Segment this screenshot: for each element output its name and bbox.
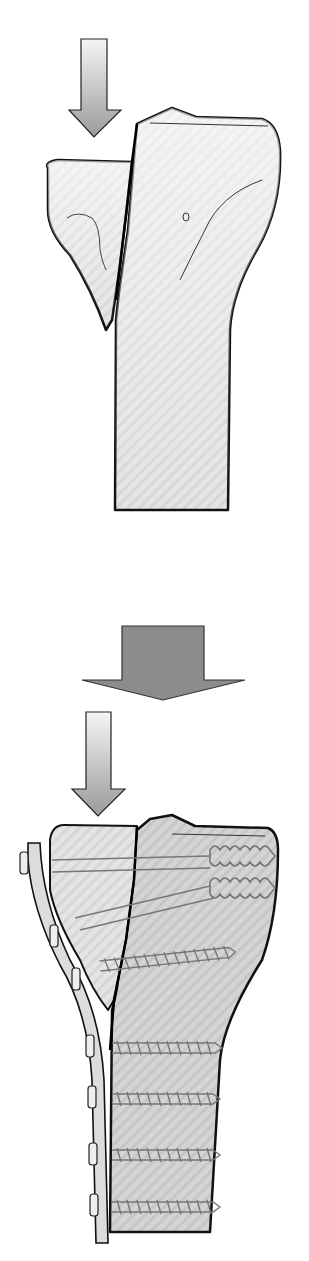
figure-canvas: Tibial plateau split fracture and plate … xyxy=(0,0,309,1261)
panel-before xyxy=(47,39,280,510)
load-arrow-icon xyxy=(72,712,125,816)
panel-transition xyxy=(82,626,245,700)
progression-arrow-icon xyxy=(82,626,245,700)
load-arrow-icon xyxy=(69,39,121,137)
illustration xyxy=(0,0,309,1261)
panel-after xyxy=(20,712,278,1243)
